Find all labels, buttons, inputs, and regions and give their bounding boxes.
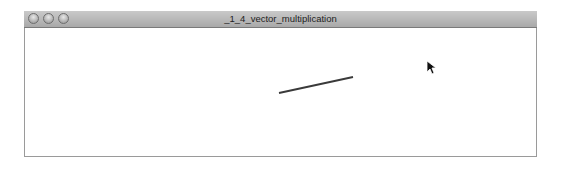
sketch-canvas[interactable]: [0, 0, 561, 169]
vector-line: [279, 77, 353, 93]
arrow-pointer-icon: [426, 60, 438, 76]
